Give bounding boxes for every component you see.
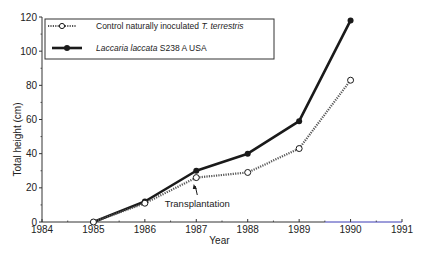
- y-axis-title: Total height (cm): [12, 103, 23, 177]
- x-tick-label: 1991: [391, 224, 414, 235]
- y-tick-label: 80: [26, 80, 38, 91]
- series-control-marker: [193, 175, 199, 181]
- legend-control-label: Control naturally inoculated T. terrestr…: [96, 21, 244, 31]
- series-control-marker: [90, 219, 96, 225]
- series-control-marker: [296, 146, 302, 152]
- legend-laccaria-label: Laccaria laccata S238 A USA: [96, 43, 207, 53]
- legend-laccaria-marker: [64, 45, 70, 51]
- series-laccaria-marker: [296, 118, 302, 124]
- series-control-marker: [348, 77, 354, 83]
- series-control-marker: [245, 169, 251, 175]
- legend-control-label-italic: T. terrestris: [201, 21, 244, 31]
- annotation: Transplantation: [165, 184, 230, 209]
- line-chart: 0204060801001201984198519861987198819891…: [0, 0, 425, 258]
- arrow-up-icon: [193, 184, 197, 189]
- x-tick-label: 1985: [82, 224, 105, 235]
- legend: Control naturally inoculated T. terrestr…: [45, 19, 274, 59]
- series-control-marker: [142, 200, 148, 206]
- annotation-label: Transplantation: [165, 198, 230, 209]
- x-tick-label: 1988: [237, 224, 260, 235]
- legend-control-marker: [59, 23, 64, 28]
- series-laccaria-marker: [348, 17, 354, 23]
- y-tick-label: 120: [20, 12, 37, 23]
- legend-laccaria-label-italic: Laccaria laccata: [96, 43, 158, 53]
- y-tick-label: 60: [26, 114, 38, 125]
- x-tick-label: 1990: [339, 224, 362, 235]
- legend-laccaria-label-plain: S238 A USA: [157, 43, 206, 53]
- x-tick-label: 1989: [288, 224, 311, 235]
- y-tick-label: 100: [20, 46, 37, 57]
- x-tick-label: 1987: [185, 224, 208, 235]
- x-tick-label: 1984: [31, 224, 54, 235]
- series-laccaria-marker: [245, 151, 251, 157]
- x-tick-label: 1986: [134, 224, 157, 235]
- y-tick-label: 20: [26, 182, 38, 193]
- x-axis-title: Year: [209, 235, 230, 246]
- y-tick-label: 40: [26, 148, 38, 159]
- legend-control-label-plain: Control naturally inoculated: [96, 21, 201, 31]
- series-laccaria-marker: [193, 168, 199, 174]
